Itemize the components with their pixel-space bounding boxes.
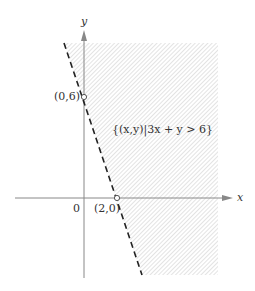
point-label-0-6: (0,6) [54, 91, 80, 102]
graph-canvas [0, 0, 255, 291]
inequality-graph: y x 0 (0,6) (2,0) {(x,y)|3x + y > 6} [0, 0, 255, 291]
y-axis-label: y [81, 16, 87, 27]
shaded-region [0, 0, 255, 291]
x-axis-label: x [237, 192, 243, 203]
point-0-6 [81, 94, 86, 99]
point-2-0 [114, 195, 119, 200]
region-set-label: {(x,y)|3x + y > 6} [112, 124, 213, 135]
point-label-2-0: (2,0) [94, 203, 120, 214]
origin-label: 0 [73, 203, 80, 214]
